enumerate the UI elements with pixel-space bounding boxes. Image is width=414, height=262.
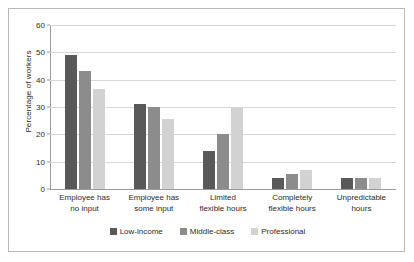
x-axis-label-line: flexible hours <box>258 204 327 215</box>
x-axis-label-line: no input <box>50 204 119 215</box>
bar <box>65 55 77 189</box>
bar <box>148 107 160 189</box>
x-axis-label-line: Completely <box>258 193 327 204</box>
plot-area: 0102030405060 <box>50 25 396 189</box>
y-tick-label-30: 30 <box>36 103 45 112</box>
legend-swatch-icon <box>180 228 187 235</box>
y-tick-label-40: 40 <box>36 75 45 84</box>
x-axis-label: Employee hassome input <box>119 193 188 214</box>
bar-group <box>203 25 243 189</box>
bar <box>203 151 215 189</box>
x-axis-label-line: Employee has <box>119 193 188 204</box>
bar <box>355 178 367 189</box>
legend-label: Professional <box>261 227 305 236</box>
legend-item-low-income[interactable]: Low-income <box>110 227 163 236</box>
bar <box>231 108 243 189</box>
bar <box>93 89 105 189</box>
legend-swatch-icon <box>110 228 117 235</box>
bar <box>300 170 312 189</box>
y-tick-label-0: 0 <box>41 185 45 194</box>
bar <box>341 178 353 189</box>
bar <box>162 119 174 189</box>
legend-item-middle-class[interactable]: Middle-class <box>180 227 234 236</box>
y-tick-label-10: 10 <box>36 157 45 166</box>
x-axis-label-line: hours <box>327 204 396 215</box>
bar <box>217 134 229 189</box>
chart-legend: Low-incomeMiddle-classProfessional <box>9 227 406 236</box>
chart-container: Percentage of workers 0102030405060 Empl… <box>8 8 405 252</box>
bar-group <box>272 25 312 189</box>
bar <box>272 178 284 189</box>
y-tick-label-20: 20 <box>36 130 45 139</box>
x-axis-label: Unpredictablehours <box>327 193 396 214</box>
x-axis-label-line: some input <box>119 204 188 215</box>
x-axis-label-line: Limited <box>188 193 257 204</box>
gridline-0 <box>50 189 396 190</box>
x-axis-label: Employee hasno input <box>50 193 119 214</box>
bar <box>369 178 381 189</box>
y-tick-label-50: 50 <box>36 48 45 57</box>
bar <box>286 174 298 189</box>
bar-group <box>65 25 105 189</box>
bar-group <box>134 25 174 189</box>
y-axis-title: Percentage of workers <box>24 32 33 152</box>
x-axis-label-line: Employee has <box>50 193 119 204</box>
bar-group <box>341 25 381 189</box>
legend-item-professional[interactable]: Professional <box>251 227 305 236</box>
bar <box>134 104 146 189</box>
x-axis-label-line: Unpredictable <box>327 193 396 204</box>
legend-swatch-icon <box>251 228 258 235</box>
x-axis-label: Completelyflexible hours <box>258 193 327 214</box>
x-axis-label-line: flexible hours <box>188 204 257 215</box>
legend-label: Low-income <box>120 227 163 236</box>
legend-label: Middle-class <box>190 227 234 236</box>
bars-layer <box>50 25 396 189</box>
bar <box>79 71 91 189</box>
x-axis-labels: Employee hasno inputEmployee hassome inp… <box>50 193 396 223</box>
y-tick-label-60: 60 <box>36 21 45 30</box>
x-axis-label: Limitedflexible hours <box>188 193 257 214</box>
